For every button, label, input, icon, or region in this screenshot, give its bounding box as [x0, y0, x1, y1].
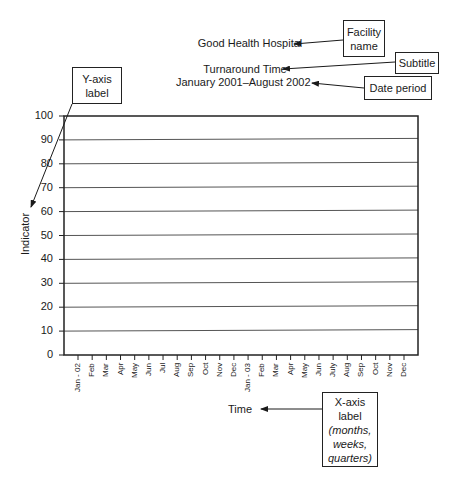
gridline [64, 330, 418, 332]
x-tick-label: Jan - 03 [243, 363, 252, 392]
x-tick-label: May [130, 363, 139, 378]
y-tick-label: 90 [27, 133, 53, 145]
arrow-date [312, 83, 364, 88]
x-tick-label: Apr [286, 363, 295, 375]
x-tick-label: Mar [271, 363, 280, 377]
arrow-facility [294, 40, 343, 44]
y-tick-label: 30 [27, 276, 53, 288]
x-tick-label: Dec [229, 363, 238, 377]
x-tick-label: Dec [399, 363, 408, 377]
gridline [64, 258, 418, 260]
gridline [64, 186, 418, 188]
gridline [64, 210, 418, 212]
gridline [64, 162, 418, 164]
x-tick-label: Aug [342, 363, 351, 377]
y-tick-label: 10 [27, 324, 53, 336]
x-tick-label: Feb [87, 363, 96, 377]
gridline [64, 138, 418, 140]
y-axis-label: Indicator [19, 213, 31, 255]
y-tick-label: 0 [27, 348, 53, 360]
x-axis-label: Time [228, 403, 252, 415]
x-tick-label: Oct [201, 363, 210, 375]
x-tick-label: Sep [356, 363, 365, 377]
x-tick-label: May [300, 363, 309, 378]
x-tick-label: Oct [371, 363, 380, 375]
gridline [64, 234, 418, 236]
x-tick-label: Mar [101, 363, 110, 377]
x-tick-label: Jun [144, 363, 153, 376]
x-tick-label: Sep [186, 363, 195, 377]
x-tick-label: Nov [385, 363, 394, 377]
gridline [64, 306, 418, 308]
x-tick-label: Nov [215, 363, 224, 377]
x-tick-label: Feb [257, 363, 266, 377]
y-tick-label: 70 [27, 181, 53, 193]
x-tick-label: Jul [158, 363, 167, 373]
y-tick-label: 80 [27, 157, 53, 169]
x-tick-label: Jun [314, 363, 323, 376]
arrow-subtitle [283, 62, 395, 69]
gridline [64, 282, 418, 284]
x-tick-label: Jan - 02 [73, 363, 82, 392]
x-tick-label: July [328, 363, 337, 377]
y-tick-label: 100 [27, 109, 53, 121]
x-tick-label: Apr [116, 363, 125, 375]
x-tick-label: Aug [172, 363, 181, 377]
y-tick-label: 20 [27, 300, 53, 312]
